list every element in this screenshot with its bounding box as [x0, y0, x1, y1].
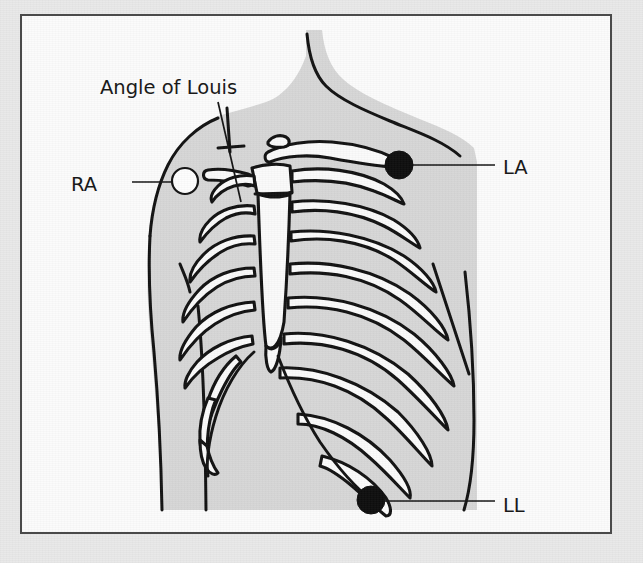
- angle-of-louis-label: Angle of Louis: [100, 76, 237, 99]
- figure-frame: Angle of Louis RA LA LL: [20, 14, 612, 534]
- la-label: LA: [503, 156, 528, 179]
- ra-electrode-group[interactable]: RA: [71, 168, 198, 196]
- ll-electrode-icon[interactable]: [357, 486, 385, 514]
- la-electrode-icon[interactable]: [385, 151, 413, 179]
- ra-label: RA: [71, 173, 98, 196]
- figure-page: Angle of Louis RA LA LL: [0, 0, 643, 563]
- ll-label: LL: [503, 494, 525, 517]
- chest-anatomy-illustration: Angle of Louis RA LA LL: [22, 16, 610, 532]
- ra-electrode-icon[interactable]: [172, 168, 198, 194]
